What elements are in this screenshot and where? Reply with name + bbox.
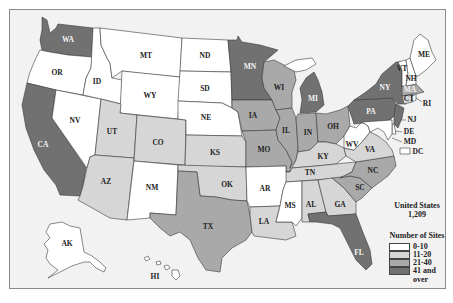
label-KS: KS <box>210 148 220 157</box>
label-OK: OK <box>221 180 233 189</box>
label-RI: RI <box>423 99 431 108</box>
label-WA: WA <box>62 35 75 44</box>
label-WI: WI <box>274 83 285 92</box>
label-KY: KY <box>317 152 329 161</box>
label-OH: OH <box>327 122 339 131</box>
label-LA: LA <box>259 217 270 226</box>
leader-RI <box>416 98 422 102</box>
label-MA: MA <box>404 85 417 94</box>
label-DE: DE <box>404 127 414 136</box>
label-ID: ID <box>93 77 102 86</box>
label-HI: HI <box>151 272 160 281</box>
label-MS: MS <box>284 201 295 210</box>
label-CA: CA <box>38 140 49 149</box>
us-total: United States 1,209 <box>388 201 446 219</box>
total-value: 1,209 <box>388 210 446 219</box>
label-NY: NY <box>380 83 391 92</box>
state-NJ[interactable] <box>394 104 404 128</box>
label-SD: SD <box>200 84 210 93</box>
label-NH: NH <box>405 74 416 83</box>
label-MN: MN <box>244 62 257 71</box>
label-IN: IN <box>304 128 313 137</box>
label-VT: VT <box>397 64 407 73</box>
state-DC-box[interactable] <box>400 148 410 154</box>
label-IA: IA <box>249 111 258 120</box>
label-IL: IL <box>282 126 290 135</box>
label-AZ: AZ <box>101 177 111 186</box>
label-MT: MT <box>140 51 152 60</box>
label-WY: WY <box>144 91 158 100</box>
legend-label-continuation: over <box>384 275 450 284</box>
label-MO: MO <box>258 145 271 154</box>
label-AR: AR <box>260 184 271 193</box>
label-NJ: NJ <box>407 115 416 124</box>
label-DC: DC <box>413 147 424 156</box>
legend-swatch-21-40 <box>389 259 410 267</box>
state-FL[interactable] <box>308 212 372 270</box>
legend-item-41-over: 41 and <box>384 267 450 275</box>
label-VA: VA <box>365 145 375 154</box>
label-ME: ME <box>418 50 430 59</box>
label-NC: NC <box>368 166 379 175</box>
label-SC: SC <box>355 183 365 192</box>
label-GA: GA <box>334 200 346 209</box>
label-AL: AL <box>306 200 316 209</box>
label-NV: NV <box>70 116 81 125</box>
legend-title: Number of Sites <box>384 231 450 240</box>
leader-MD <box>392 138 402 142</box>
total-region-label: United States <box>388 201 446 210</box>
label-TX: TX <box>203 222 214 231</box>
label-NE: NE <box>201 113 211 122</box>
label-MD: MD <box>404 137 417 146</box>
label-NM: NM <box>146 183 159 192</box>
label-UT: UT <box>107 127 117 136</box>
legend: Number of Sites 0-10 11-20 21-40 41 and … <box>384 231 450 284</box>
label-OR: OR <box>51 68 63 77</box>
label-CO: CO <box>152 138 163 147</box>
state-HI[interactable] <box>144 256 180 280</box>
legend-label: 41 and <box>413 267 436 275</box>
label-WV: WV <box>346 140 360 149</box>
label-MI: MI <box>308 94 318 103</box>
label-TN: TN <box>305 168 316 177</box>
legend-swatch-0-10 <box>389 243 410 251</box>
label-FL: FL <box>354 248 364 257</box>
leader-DE <box>395 131 402 132</box>
legend-swatch-11-20 <box>389 251 410 259</box>
label-AK: AK <box>61 239 72 248</box>
state-MI[interactable] <box>300 72 324 113</box>
state-AK[interactable] <box>44 222 106 278</box>
legend-swatch-41-over <box>389 267 410 275</box>
label-CT: CT <box>404 94 414 103</box>
label-ND: ND <box>200 51 211 60</box>
label-PA: PA <box>366 107 376 116</box>
